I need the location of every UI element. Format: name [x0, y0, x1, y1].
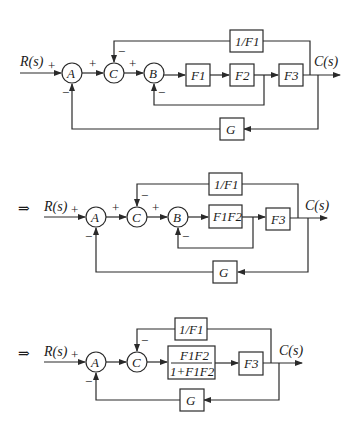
- block-denominator: 1+F1F2: [170, 364, 215, 379]
- block-f1-label: F1: [190, 68, 205, 83]
- block-f1f2-label: F1F2: [212, 209, 242, 224]
- plus-sign: +: [89, 56, 96, 71]
- junction-b-label: B: [173, 210, 181, 225]
- plus-sign: +: [48, 58, 55, 73]
- minus-sign: −: [141, 333, 148, 348]
- junction-a-label: A: [66, 66, 75, 81]
- feedback-path-a: [96, 373, 180, 400]
- diagram-step-1: ⇒ R(s) + A − + C − + B − F1F2 F3 C(s) 1/…: [18, 173, 329, 283]
- block-g-label: G: [226, 122, 236, 137]
- block-diagram-reduction: R(s) + A − + C − + B − F1 F2 F3 C(s): [0, 0, 353, 437]
- block-f3-label: F3: [243, 356, 259, 371]
- junction-a-label: A: [90, 355, 99, 370]
- implies-arrow: ⇒: [18, 201, 30, 216]
- input-label: R(s): [19, 54, 44, 70]
- block-inv-f1-label: 1/F1: [214, 177, 239, 192]
- junction-c-label: C: [109, 66, 118, 81]
- minus-sign: −: [118, 44, 125, 59]
- diagram-original: R(s) + A − + C − + B − F1 F2 F3 C(s): [19, 30, 340, 140]
- junction-b-label: B: [149, 66, 157, 81]
- output-label: C(s): [279, 343, 303, 359]
- block-f3-label: F3: [283, 68, 299, 83]
- block-f2-label: F2: [234, 68, 250, 83]
- input-label: R(s): [43, 344, 68, 360]
- input-label: R(s): [43, 199, 68, 215]
- plus-sign: +: [129, 56, 136, 71]
- block-f3-label: F3: [270, 212, 286, 227]
- feedback-path-a: [72, 84, 220, 129]
- plus-sign: +: [71, 347, 78, 362]
- feedback-path-a: [96, 228, 213, 272]
- minus-sign: −: [141, 188, 148, 203]
- output-label: C(s): [314, 54, 338, 70]
- diagram-step-2: ⇒ R(s) + A − C − F1F2 1+F1F2 F3 C(s) 1/F…: [18, 318, 303, 411]
- block-inv-f1-label: 1/F1: [235, 34, 260, 49]
- implies-arrow: ⇒: [18, 346, 30, 361]
- plus-sign: +: [71, 202, 78, 217]
- junction-c-label: C: [132, 355, 141, 370]
- plus-sign: +: [112, 200, 119, 215]
- block-g-label: G: [219, 265, 229, 280]
- block-inv-f1-label: 1/F1: [179, 322, 204, 337]
- minus-sign: −: [62, 85, 69, 100]
- minus-sign: −: [182, 229, 189, 244]
- block-numerator: F1F2: [179, 348, 209, 363]
- minus-sign: −: [85, 229, 92, 244]
- minus-sign: −: [85, 374, 92, 389]
- junction-c-label: C: [132, 210, 141, 225]
- junction-a-label: A: [90, 210, 99, 225]
- block-g-label: G: [186, 393, 196, 408]
- plus-sign: +: [152, 200, 159, 215]
- minus-sign: −: [158, 85, 165, 100]
- output-label: C(s): [305, 198, 329, 214]
